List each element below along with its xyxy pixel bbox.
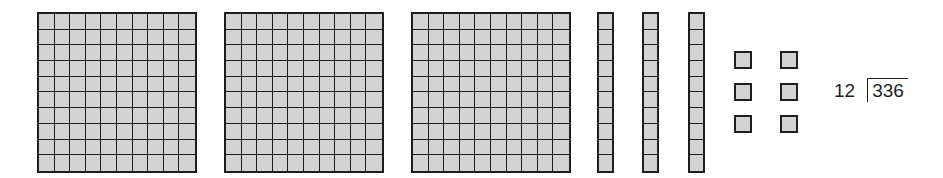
unit-cell [86,14,102,30]
unit-cell [644,92,657,108]
unit-cell [70,30,86,46]
unit-cell [690,92,703,108]
unit-cell [288,14,304,30]
unit-cell [273,14,289,30]
unit-cell [538,77,554,93]
unit-cell [179,108,195,124]
unit-cell [164,14,180,30]
dividend: 336 [867,78,908,102]
unit-cell [257,92,273,108]
unit-cell [553,155,569,171]
unit-cell [133,108,149,124]
unit-cell [179,155,195,171]
unit-cell [164,30,180,46]
divisor: 12 [834,81,867,102]
unit-cell [304,61,320,77]
unit-cell [599,140,612,156]
unit-cell [507,108,523,124]
unit-cell [413,92,429,108]
unit-cell [257,61,273,77]
unit-cell [366,45,382,61]
unit-cell [335,108,351,124]
unit-cell [70,61,86,77]
unit-cell [226,92,242,108]
unit-cell [242,140,258,156]
unit-cell [429,45,445,61]
unit-cell [133,124,149,140]
unit-cell [55,14,71,30]
unit-cell [413,45,429,61]
unit-cell [351,45,367,61]
unit-cell [55,140,71,156]
unit-cell [444,155,460,171]
unit-cell [133,77,149,93]
unit-cell [522,92,538,108]
unit-cell [304,30,320,46]
unit-cell [133,30,149,46]
unit-cell [70,124,86,140]
unit-cell [117,45,133,61]
unit-cell [179,77,195,93]
unit-cell [320,124,336,140]
unit-cell [273,140,289,156]
unit-cell [351,155,367,171]
unit-cell [288,45,304,61]
unit-cell [226,14,242,30]
unit-cell [101,45,117,61]
unit-cell [644,77,657,93]
unit-cell [460,45,476,61]
unit-cell [491,77,507,93]
unit-cell [413,61,429,77]
unit-cell [444,61,460,77]
unit-cell [86,61,102,77]
unit-cell [335,77,351,93]
unit-cell [133,61,149,77]
unit-cell [429,140,445,156]
unit-cell [507,140,523,156]
unit-cell [320,30,336,46]
unit-cell [226,61,242,77]
unit-cell [39,140,55,156]
unit-cell [86,45,102,61]
unit-cell [179,61,195,77]
unit-cell [460,92,476,108]
unit-cell [148,92,164,108]
unit-cell [491,108,507,124]
unit-cell [553,124,569,140]
unit-cell [273,30,289,46]
ones-cube-5 [734,115,752,133]
unit-cell [460,108,476,124]
unit-cell [148,14,164,30]
unit-cell [101,30,117,46]
unit-cell [491,61,507,77]
unit-cell [460,140,476,156]
unit-cell [257,108,273,124]
unit-cell [117,124,133,140]
unit-cell [491,124,507,140]
unit-cell [599,45,612,61]
unit-cell [70,140,86,156]
unit-cell [242,92,258,108]
unit-cell [538,92,554,108]
unit-cell [553,45,569,61]
unit-cell [242,30,258,46]
unit-cell [273,45,289,61]
unit-cell [39,108,55,124]
unit-cell [413,108,429,124]
unit-cell [444,92,460,108]
unit-cell [86,30,102,46]
unit-cell [507,92,523,108]
unit-cell [444,140,460,156]
unit-cell [522,14,538,30]
tens-rod-2 [642,12,659,173]
unit-cell [553,108,569,124]
unit-cell [351,124,367,140]
unit-cell [444,14,460,30]
unit-cell [444,45,460,61]
unit-cell [148,155,164,171]
unit-cell [117,30,133,46]
unit-cell [242,155,258,171]
unit-cell [538,108,554,124]
unit-cell [179,92,195,108]
unit-cell [70,45,86,61]
